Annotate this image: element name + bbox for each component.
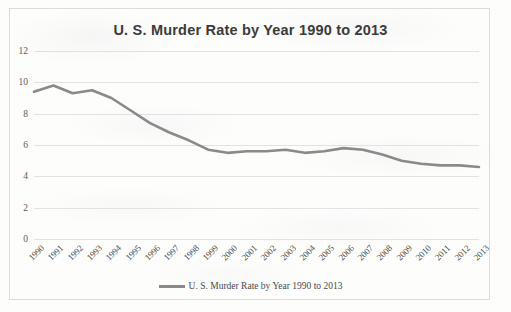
- x-axis-tick-label: 2005: [317, 243, 337, 263]
- chart-title: U. S. Murder Rate by Year 1990 to 2013: [10, 22, 491, 38]
- gridline: [34, 239, 479, 240]
- x-axis-tick-label: 2000: [220, 243, 240, 263]
- x-axis-tick-label: 1994: [104, 243, 124, 263]
- y-axis-tick-label: 0: [23, 234, 28, 244]
- x-axis-tick-label: 1991: [46, 243, 66, 263]
- y-axis-tick-label: 4: [23, 171, 28, 181]
- x-axis-tick-label: 2010: [414, 243, 434, 263]
- x-axis-tick-label: 2011: [433, 243, 452, 262]
- x-axis-tick-label: 2001: [239, 243, 259, 263]
- x-axis-tick-label: 2007: [355, 243, 375, 263]
- x-axis-tick-label: 2003: [278, 243, 298, 263]
- x-axis-tick-label: 2013: [472, 243, 492, 263]
- x-axis-tick-label: 2002: [259, 243, 279, 263]
- x-axis-tick-label: 1998: [181, 243, 201, 263]
- x-axis-tick-label: 1995: [123, 243, 143, 263]
- y-axis-tick-label: 12: [19, 46, 29, 56]
- legend-label: U. S. Murder Rate by Year 1990 to 2013: [189, 281, 343, 291]
- x-axis-tick-label: 1999: [201, 243, 221, 263]
- series-line-murder-rate: [34, 51, 479, 239]
- y-axis-tick-label: 2: [23, 203, 28, 213]
- x-axis-tick-label: 2006: [336, 243, 356, 263]
- x-axis-tick-label: 2004: [297, 243, 317, 263]
- x-axis-tick-label: 2012: [452, 243, 472, 263]
- x-axis-tick-label: 2008: [375, 243, 395, 263]
- plot-area: 024681012 199019911992199319941995199619…: [34, 51, 479, 239]
- chart-frame: U. S. Murder Rate by Year 1990 to 2013 0…: [9, 8, 490, 300]
- x-axis-tick-label: 2009: [394, 243, 414, 263]
- series-polyline: [34, 85, 479, 166]
- chart-legend: U. S. Murder Rate by Year 1990 to 2013: [10, 281, 491, 291]
- murder-rate-line-chart: U. S. Murder Rate by Year 1990 to 2013 0…: [0, 0, 511, 312]
- x-axis-tick-label: 1996: [143, 243, 163, 263]
- x-axis-tick-label: 1992: [65, 243, 85, 263]
- x-axis-tick-label: 1990: [27, 243, 47, 263]
- x-axis-tick-label: 1993: [85, 243, 105, 263]
- y-axis-tick-label: 6: [23, 140, 28, 150]
- legend-line-swatch: [159, 285, 185, 288]
- y-axis-tick-label: 10: [19, 77, 29, 87]
- y-axis-tick-label: 8: [23, 109, 28, 119]
- x-axis-tick-label: 1997: [162, 243, 182, 263]
